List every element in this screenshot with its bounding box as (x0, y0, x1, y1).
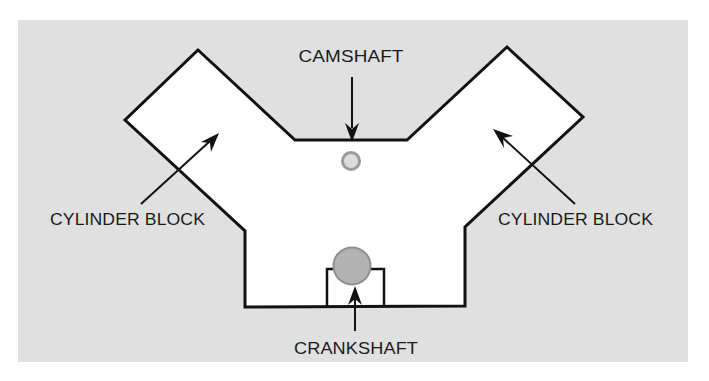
cylinder-block-right-label: CYLINDER BLOCK (498, 210, 653, 228)
crankshaft-label: CRANKSHAFT (294, 339, 418, 357)
cylinder-block-left-label: CYLINDER BLOCK (50, 210, 205, 228)
engine-diagram: CAMSHAFT CYLINDER BLOCK CYLINDER BLOCK C… (0, 0, 709, 381)
crankshaft-circle (334, 248, 371, 285)
camshaft-label: CAMSHAFT (299, 47, 404, 65)
camshaft-circle (343, 153, 360, 170)
